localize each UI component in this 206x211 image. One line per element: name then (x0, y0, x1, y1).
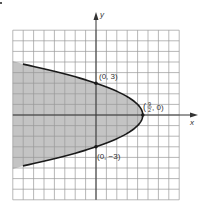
point-label-vertex: ( 9 2 , 0) (143, 101, 164, 113)
point-marker (94, 81, 98, 85)
x-axis-arrow-icon (190, 113, 198, 118)
vertex-label-open: ( (143, 102, 146, 112)
vertex-label-rest: , 0) (152, 103, 164, 112)
point-label-0-3: (0, 3) (99, 72, 118, 81)
parabola-region-graph: x y (0, 3) (0, −3) ( 9 2 , 0) (0, 0, 206, 211)
y-axis-arrow-icon (94, 12, 99, 20)
point-marker (141, 113, 145, 117)
y-axis-label: y (99, 10, 105, 19)
point-label-0-neg3: (0, −3) (97, 152, 121, 161)
vertex-label-denominator: 2 (148, 107, 151, 113)
x-axis-label: x (189, 118, 195, 127)
point-marker (94, 145, 98, 149)
scan-speck (0, 2, 2, 4)
